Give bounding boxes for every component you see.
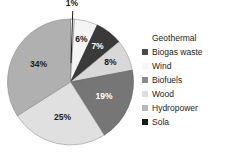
legend-label-geothermal: Geothermal — [152, 33, 196, 43]
legend-item-biofuels[interactable]: Biofuels — [142, 73, 228, 87]
legend-item-biogas-waste[interactable]: Biogas waste — [142, 45, 228, 59]
legend-swatch-sola-icon — [142, 119, 148, 125]
legend-swatch-biogas-waste-icon — [142, 49, 148, 55]
legend-swatch-hydropower-icon — [142, 105, 148, 111]
legend-swatch-wood-icon — [142, 91, 148, 97]
legend-item-sola[interactable]: Sola — [142, 115, 228, 129]
legend-label-wind: Wind — [152, 61, 171, 71]
pie-slice-label-8pct: 8% — [104, 57, 117, 67]
pie-slice-label-6pct: 6% — [75, 34, 88, 44]
legend-label-sola: Sola — [152, 117, 169, 127]
legend-swatch-wind-icon — [142, 63, 148, 69]
legend-label-wood: Wood — [152, 89, 174, 99]
legend-label-hydropower: Hydropower — [152, 103, 198, 113]
legend-item-wood[interactable]: Wood — [142, 87, 228, 101]
legend-item-hydropower[interactable]: Hydropower — [142, 101, 228, 115]
pie-chart-plot-area: 1% 6% 7% 8% 19% 25% 34% — [0, 0, 140, 158]
legend-swatch-geothermal-icon — [142, 35, 148, 41]
pie-slice-label-1pct: 1% — [66, 0, 79, 8]
legend-swatch-biofuels-icon — [142, 77, 148, 83]
pie-slice-label-7pct: 7% — [91, 41, 104, 51]
pie-chart-svg: 1% 6% 7% 8% 19% 25% 34% — [0, 0, 140, 158]
pie-slice-label-19pct: 19% — [96, 91, 113, 101]
legend-label-biofuels: Biofuels — [152, 75, 182, 85]
legend-label-biogas-waste: Biogas waste — [152, 47, 203, 57]
pie-slices — [8, 19, 134, 145]
pie-slice-label-25pct: 25% — [54, 112, 71, 122]
chart-legend: Geothermal Biogas waste Wind Biofuels Wo… — [142, 31, 228, 129]
pie-chart-figure: 1% 6% 7% 8% 19% 25% 34% Geothermal Bioga… — [0, 0, 228, 158]
legend-item-geothermal[interactable]: Geothermal — [142, 31, 228, 45]
pie-slice-label-34pct: 34% — [30, 59, 47, 69]
legend-item-wind[interactable]: Wind — [142, 59, 228, 73]
